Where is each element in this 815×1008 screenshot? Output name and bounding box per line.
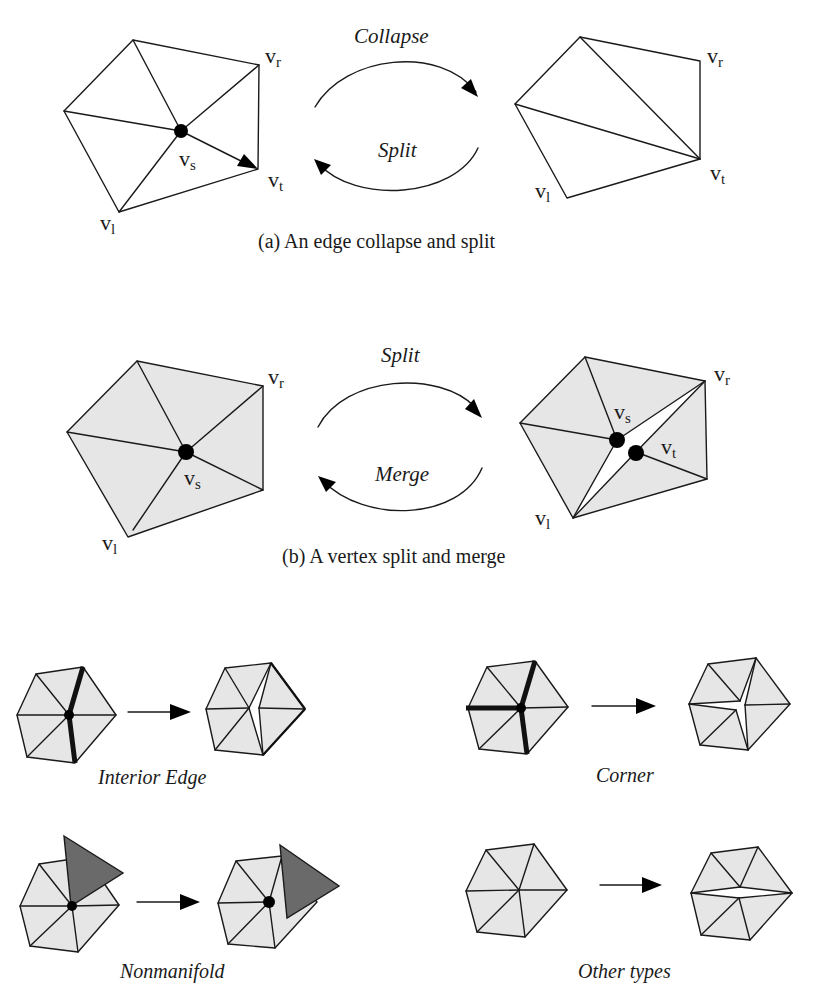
panel-a-after-mesh — [515, 37, 700, 198]
other-types-arrow — [600, 877, 662, 893]
other-types-before — [466, 844, 567, 937]
vertex-vs-dot — [178, 444, 194, 460]
corner-before — [466, 661, 568, 754]
label-vr: vr — [714, 361, 730, 389]
interior-edge-arrow — [128, 704, 191, 720]
split-type-other-types-label: Other types — [578, 960, 671, 983]
vertex-vs-dot — [174, 124, 188, 138]
panel-b-before-mesh — [67, 361, 263, 537]
label-vr: vr — [707, 43, 723, 71]
merge-operation-label: Merge — [375, 462, 429, 487]
split-operation-label: Split — [378, 138, 417, 163]
collapse-operation-label: Collapse — [354, 24, 429, 49]
panel-b-after-mesh — [520, 357, 707, 518]
label-vs: vs — [179, 146, 196, 174]
split-type-interior-edge-label: Interior Edge — [98, 766, 206, 789]
label-vs: vs — [184, 465, 201, 493]
label-vt: vt — [661, 434, 676, 462]
corner-after — [689, 658, 790, 750]
panel-a-before-mesh — [64, 40, 259, 212]
interior-edge-after — [206, 663, 305, 755]
label-vl: vl — [102, 530, 117, 558]
other-types-after — [691, 847, 792, 940]
panel-b-caption: (b) A vertex split and merge — [282, 545, 505, 568]
label-vl: vl — [100, 210, 115, 238]
nonmanifold-after — [218, 845, 339, 948]
split-type-corner-label: Corner — [596, 764, 654, 787]
label-vr: vr — [265, 43, 281, 71]
vertex-vt-dot — [628, 445, 644, 461]
panel-a-caption: (a) An edge collapse and split — [258, 230, 495, 253]
interior-edge-before — [17, 667, 116, 763]
vertex-vs-dot — [609, 432, 625, 448]
label-vr: vr — [268, 364, 284, 392]
nonmanifold-before — [20, 836, 123, 952]
nonmanifold-arrow — [137, 894, 200, 910]
panel-b-operation-arrows — [318, 383, 482, 511]
corner-arrow — [592, 698, 656, 714]
collapse-direction-arrowhead — [237, 154, 258, 169]
label-vs: vs — [614, 399, 631, 427]
label-vl: vl — [535, 505, 550, 533]
panel-a-operation-arrows — [314, 62, 478, 191]
collapse-arrowhead — [461, 79, 478, 97]
label-vt: vt — [268, 167, 283, 195]
split-operation-label: Split — [381, 343, 420, 368]
label-vt: vt — [710, 160, 725, 188]
split-type-nonmanifold-label: Nonmanifold — [120, 960, 224, 983]
label-vl: vl — [535, 178, 550, 206]
split-arrowhead — [465, 399, 482, 418]
